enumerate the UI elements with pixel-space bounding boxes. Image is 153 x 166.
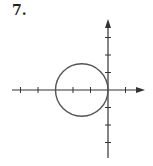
x-axis-arrow-icon xyxy=(136,87,145,93)
y-axis-arrow-icon xyxy=(105,19,111,28)
coordinate-diagram xyxy=(0,0,153,166)
